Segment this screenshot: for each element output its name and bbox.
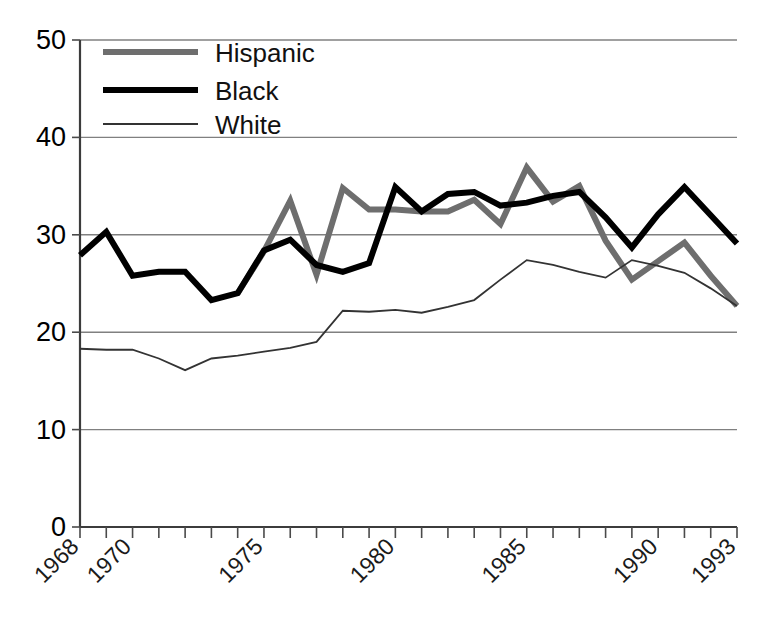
legend-label-white: White xyxy=(215,110,281,140)
xtick-label-1993: 1993 xyxy=(686,533,741,588)
x-axis-labels: 1968 1970 1975 1980 1985 1990 1993 xyxy=(29,533,741,588)
xtick-label-1968: 1968 xyxy=(29,533,84,588)
xtick-label-1985: 1985 xyxy=(476,533,531,588)
ytick-label-10: 10 xyxy=(36,415,66,445)
xtick-label-1975: 1975 xyxy=(213,533,268,588)
xtick-label-1990: 1990 xyxy=(608,533,663,588)
legend-label-black: Black xyxy=(215,76,280,106)
plot-area-background xyxy=(80,40,737,527)
xtick-label-1980: 1980 xyxy=(345,533,400,588)
ytick-label-40: 40 xyxy=(36,122,66,152)
line-chart: 50 40 30 20 10 0 1968 1970 1975 1980 198… xyxy=(0,0,775,626)
legend-label-hispanic: Hispanic xyxy=(215,38,315,68)
ytick-label-30: 30 xyxy=(36,220,66,250)
x-axis-ticks xyxy=(80,527,737,538)
ytick-label-20: 20 xyxy=(36,317,66,347)
y-axis-ticks xyxy=(72,40,80,527)
ytick-label-50: 50 xyxy=(36,25,66,55)
y-axis-labels: 50 40 30 20 10 0 xyxy=(36,25,66,542)
chart-canvas: 50 40 30 20 10 0 1968 1970 1975 1980 198… xyxy=(0,0,775,626)
xtick-label-1970: 1970 xyxy=(82,533,137,588)
